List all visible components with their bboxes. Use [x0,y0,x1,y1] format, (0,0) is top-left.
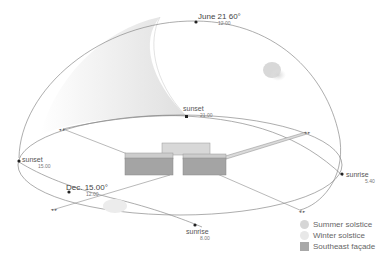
summer-sunrise-label: sunrise [346,171,369,178]
legend-facade: Southeast façade [300,241,375,252]
summer-sunset-time: 21.00 [200,113,213,118]
svg-text:◄►: ◄► [298,209,306,214]
legend-winter-label: Winter solstice [313,231,365,240]
dec-time: 12.00 [86,192,99,197]
winter-sunset-label: sunset [22,156,43,163]
legend-winter: Winter solstice [300,230,375,241]
winter-sunset-dot [17,159,20,162]
legend-summer-label: Summer solstice [313,220,372,229]
summer-sunset-dot [185,115,188,118]
winter-sunrise-dot [193,223,196,226]
svg-text:◄►: ◄► [303,130,311,135]
june-time: 12.00 [218,21,231,26]
legend-facade-label: Southeast façade [313,242,375,251]
summer-sunrise-dot [340,172,343,175]
summer-sunset-label: sunset [183,105,204,112]
summer-swatch-icon [300,220,309,229]
winter-sun-path [19,162,202,227]
winter-sunrise-label: sunrise [186,228,209,235]
svg-text:◄►: ◄► [50,207,58,212]
winter-sunrise-time: 8.00 [200,236,210,241]
building-model [125,143,226,175]
winter-swatch-icon [300,231,309,240]
svg-text:◄►: ◄► [58,127,66,132]
winter-sunset-time: 15.00 [38,164,51,169]
summer-sunrise-time: 5.40 [365,179,375,184]
facade-swatch-icon [300,242,309,251]
legend: Summer solstice Winter solstice Southeas… [300,219,375,252]
winter-sun-icon [103,199,127,213]
horizon-ellipse [18,115,342,215]
summer-path-shade [40,17,186,135]
legend-summer: Summer solstice [300,219,375,230]
